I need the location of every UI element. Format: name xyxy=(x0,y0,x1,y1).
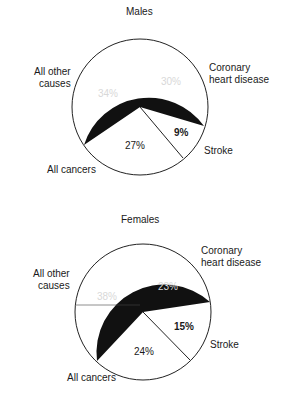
males-other-pct: 34% xyxy=(98,88,118,99)
males-other-label: All other causes xyxy=(34,66,71,90)
females-cancer-label: All cancers xyxy=(67,372,116,384)
males-stroke-pct: 9% xyxy=(174,127,188,138)
males-cancer-pct: 27% xyxy=(125,140,145,151)
males-cancer-label: All cancers xyxy=(47,164,96,176)
females-pie xyxy=(75,244,211,380)
females-other-pct: 38% xyxy=(97,291,117,302)
pie-charts xyxy=(0,0,287,399)
females-stroke-label: Stroke xyxy=(210,339,239,351)
females-other-label: All other causes xyxy=(33,268,70,292)
males-chd-pct: 30% xyxy=(161,76,181,87)
females-stroke-pct: 15% xyxy=(174,321,194,332)
males-stroke-label: Stroke xyxy=(204,145,233,157)
males-pie xyxy=(72,39,208,175)
males-chd-label: Coronary heart disease xyxy=(209,62,269,86)
males-title: Males xyxy=(126,6,153,17)
females-chd-pct: 23% xyxy=(158,281,178,292)
females-cancer-pct: 24% xyxy=(134,346,154,357)
females-chd-label: Coronary heart disease xyxy=(201,245,261,269)
females-title: Females xyxy=(121,214,159,225)
